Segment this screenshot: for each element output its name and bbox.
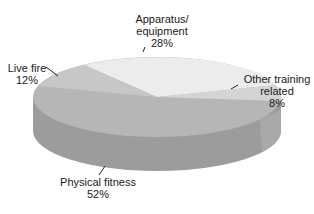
label-live-fire: Live fire 12% xyxy=(2,62,52,86)
label-apparatus: Apparatus/ equipment 28% xyxy=(122,13,202,49)
label-physical-fitness: Physical fitness 52% xyxy=(58,176,138,200)
label-other-training: Other training related 8% xyxy=(240,73,314,109)
